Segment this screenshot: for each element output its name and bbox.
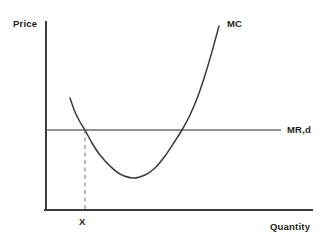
x-quantity-tick-label: X [79,216,85,227]
mc-curve-path [70,26,219,178]
mc-curve-label: MC [227,18,242,29]
mr-d-line-label: MR,d [287,124,311,135]
marginal-cost-diagram: Price Quantity MC MR,d X [0,0,328,244]
y-axis-label: Price [13,18,37,29]
x-axis-label: Quantity [270,221,310,232]
plot-area [0,0,328,244]
